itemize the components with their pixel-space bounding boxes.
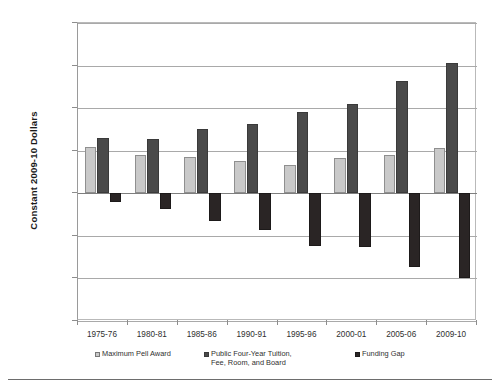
gridline [78,108,477,109]
legend-swatch-pell-icon [95,352,100,357]
x-axis-tick-mark [326,320,327,325]
legend-label: Public Four-Year Tuition, Fee, Room, and… [211,350,292,367]
bar-gap-2000-01 [359,193,371,247]
gridline [78,321,477,322]
x-axis-tick-mark [376,320,377,325]
chart-legend: Maximum Pell AwardPublic Four-Year Tuiti… [77,350,476,376]
legend-item: Public Four-Year Tuition, Fee, Room, and… [204,350,292,367]
bar-pell-1975-76 [85,147,97,193]
legend-item: Maximum Pell Award [95,350,171,359]
gridline [78,278,477,279]
x-axis-tick-mark [227,320,228,325]
bar-tuition-1985-86 [197,129,209,193]
bar-pell-2009-10 [434,148,446,193]
x-axis-tick-label: 2009-10 [416,330,486,339]
legend-swatch-gap-icon [355,352,360,357]
bar-tuition-1980-81 [147,139,159,193]
legend-swatch-tuition-icon [204,352,209,357]
plot-area [77,22,476,320]
bar-gap-1980-81 [160,193,172,209]
bar-gap-2005-06 [409,193,421,267]
bar-gap-1995-96 [309,193,321,245]
bar-gap-1985-86 [209,193,221,221]
gridline [78,66,477,67]
x-axis-tick-mark [476,320,477,325]
chart-figure: Constant 2009-10 Dollars $20,000$15,000$… [0,0,500,392]
bar-gap-2009-10 [459,193,471,278]
bar-tuition-2009-10 [446,63,458,193]
x-axis-tick-mark [426,320,427,325]
legend-label: Maximum Pell Award [102,350,171,359]
x-axis-tick-mark [127,320,128,325]
footer-divider [8,379,492,380]
gridline [78,23,477,24]
bar-tuition-1975-76 [97,138,109,193]
x-axis-tick-mark [177,320,178,325]
bar-pell-2005-06 [384,155,396,193]
bar-gap-1990-91 [259,193,271,230]
x-axis-tick-mark [77,320,78,325]
bar-tuition-2000-01 [347,104,359,193]
bar-pell-1995-96 [284,165,296,194]
bar-tuition-1990-91 [247,124,259,193]
y-axis-title: Constant 2009-10 Dollars [28,76,39,266]
bar-pell-1980-81 [135,155,147,193]
bar-pell-1990-91 [234,161,246,193]
x-axis-tick-mark [277,320,278,325]
bar-pell-2000-01 [334,158,346,194]
bar-pell-1985-86 [184,157,196,193]
legend-item: Funding Gap [355,350,405,359]
legend-label: Funding Gap [362,350,405,359]
bar-tuition-2005-06 [396,81,408,193]
gridline [78,151,477,152]
bar-tuition-1995-96 [297,112,309,193]
bar-gap-1975-76 [110,193,122,202]
